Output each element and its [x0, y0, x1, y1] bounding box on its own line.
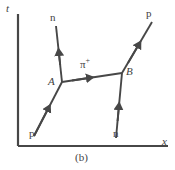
particle-label-neutron-out: n — [50, 12, 56, 23]
figure-caption: (b) — [75, 152, 88, 163]
proton-in-arrow — [34, 106, 50, 136]
particle-label-proton-in: p — [29, 128, 35, 139]
particle-label-pion: π+ — [80, 57, 90, 70]
neutron-out-line — [56, 26, 62, 82]
neutron-in-arrow — [118, 104, 120, 121]
particle-label-neutron-in: n — [113, 128, 119, 139]
proton-out-arrow — [128, 43, 140, 64]
particle-label-proton-out: p — [146, 8, 152, 19]
feynman-diagram: t x A B n p p n π+ (b) — [0, 0, 175, 170]
neutron-out-arrow — [59, 50, 61, 65]
t-axis-label: t — [6, 3, 9, 14]
vertex-label-b: B — [126, 66, 133, 77]
pion-exchange-line — [62, 73, 122, 82]
x-axis-label: x — [162, 136, 167, 147]
diagram-canvas — [0, 0, 175, 170]
pion-arrow — [72, 78, 92, 81]
vertex-label-a: A — [48, 76, 55, 87]
pion-charge-superscript: + — [86, 56, 91, 65]
proton-in-line — [34, 82, 62, 136]
